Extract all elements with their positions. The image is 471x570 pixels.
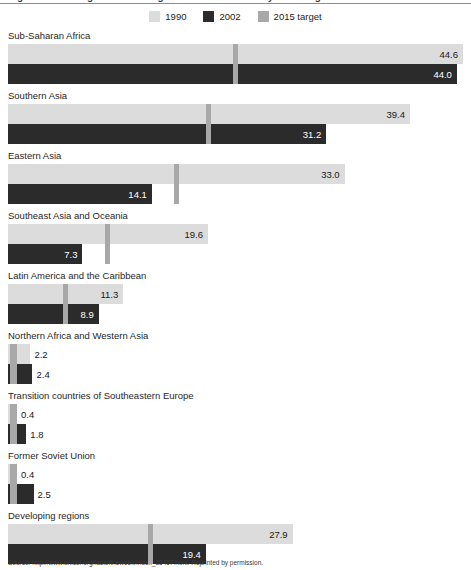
- bar-row: 31.2: [8, 124, 471, 144]
- bar-row: 2.4: [8, 364, 471, 384]
- bar-value-label: 8.9: [81, 309, 99, 320]
- legend-item-2015-target: 2015 target: [258, 11, 322, 22]
- bar-group: Eastern Asia33.014.1: [0, 150, 471, 204]
- bar-row: 7.3: [8, 244, 471, 264]
- bar-row: 19.6: [8, 224, 471, 244]
- category-label: Developing regions: [0, 510, 471, 521]
- target-marker-2015: [174, 164, 179, 204]
- legend-item-2002: 2002: [203, 11, 240, 22]
- bar-group: Sub-Saharan Africa44.644.0: [0, 30, 471, 84]
- bar-row: 8.9: [8, 304, 471, 324]
- category-label: Former Soviet Union: [0, 450, 471, 461]
- target-marker-2015: [10, 404, 17, 444]
- bar-row: 33.0: [8, 164, 471, 184]
- bar-row: 44.0: [8, 64, 471, 84]
- bar-value-label: 33.0: [321, 169, 345, 180]
- bar-value-label: 27.9: [269, 529, 293, 540]
- bar-row: 27.9: [8, 524, 471, 544]
- target-marker-2015: [10, 344, 17, 384]
- bar-group: Southern Asia39.431.2: [0, 90, 471, 144]
- bar-pair: 44.644.0: [0, 44, 471, 84]
- bar-row: 11.3: [8, 284, 471, 304]
- bar-value-label: 11.3: [100, 289, 123, 300]
- bar-value-label: 19.6: [184, 229, 208, 240]
- bar-value-label: 14.1: [128, 189, 152, 200]
- target-marker-2015: [10, 464, 17, 504]
- bar-row: 0.4: [8, 464, 471, 484]
- bar-row: 2.5: [8, 484, 471, 504]
- bar-row: 1.8: [8, 424, 471, 444]
- target-marker-2015: [105, 224, 110, 264]
- bar-value-label: 31.2: [303, 129, 327, 140]
- bar-row: 2.2: [8, 344, 471, 364]
- legend-label-1990: 1990: [165, 11, 186, 22]
- target-marker-2015: [233, 44, 238, 84]
- bar-group: Transition countries of Southeastern Eur…: [0, 390, 471, 444]
- bar-pair: 0.41.8: [0, 404, 471, 444]
- legend-swatch-2015-target: [258, 11, 269, 22]
- target-marker-2015: [63, 284, 68, 324]
- bar-pair: 27.919.4: [0, 524, 471, 564]
- category-label: Transition countries of Southeastern Eur…: [0, 390, 471, 401]
- bar-value-label: 2.4: [32, 369, 49, 380]
- bar-pair: 39.431.2: [0, 104, 471, 144]
- bar-2002[interactable]: 8.9: [8, 304, 99, 324]
- bar-group: Latin America and the Caribbean11.38.9: [0, 270, 471, 324]
- legend-label-2015-target: 2015 target: [274, 11, 322, 22]
- bar-value-label: 0.4: [17, 469, 34, 480]
- legend-item-1990: 1990: [149, 11, 186, 22]
- target-marker-2015: [148, 524, 153, 564]
- chart-legend: 1990 2002 2015 target: [0, 11, 471, 22]
- bar-chart: Sub-Saharan Africa44.644.0Southern Asia3…: [0, 30, 471, 570]
- category-label: Southern Asia: [0, 90, 471, 101]
- category-label: Sub-Saharan Africa: [0, 30, 471, 41]
- bar-group: Northern Africa and Western Asia2.22.4: [0, 330, 471, 384]
- legend-swatch-2002: [203, 11, 214, 22]
- bar-value-label: 2.2: [30, 349, 47, 360]
- source-note: Source: http://www.unicef.org/factofthew…: [8, 559, 263, 566]
- header-divider: [0, 3, 471, 4]
- bar-row: 14.1: [8, 184, 471, 204]
- bar-2002[interactable]: 7.3: [8, 244, 82, 264]
- bar-value-label: 44.0: [433, 69, 457, 80]
- bar-row: 44.6: [8, 44, 471, 64]
- bar-2002[interactable]: 31.2: [8, 124, 326, 144]
- legend-label-2002: 2002: [219, 11, 240, 22]
- bar-value-label: 39.4: [386, 109, 410, 120]
- bar-2002[interactable]: 14.1: [8, 184, 152, 204]
- bar-pair: 0.42.5: [0, 464, 471, 504]
- category-label: Latin America and the Caribbean: [0, 270, 471, 281]
- bar-pair: 19.67.3: [0, 224, 471, 264]
- bar-value-label: 2.5: [34, 489, 51, 500]
- bar-group: Developing regions27.919.4: [0, 510, 471, 564]
- legend-swatch-1990: [149, 11, 160, 22]
- bar-pair: 2.22.4: [0, 344, 471, 384]
- category-label: Southeast Asia and Oceania: [0, 210, 471, 221]
- bar-pair: 33.014.1: [0, 164, 471, 204]
- bar-value-label: 19.4: [182, 549, 206, 560]
- category-label: Northern Africa and Western Asia: [0, 330, 471, 341]
- bar-pair: 11.38.9: [0, 284, 471, 324]
- bar-group: Former Soviet Union0.42.5: [0, 450, 471, 504]
- bar-value-label: 0.4: [17, 409, 34, 420]
- category-label: Eastern Asia: [0, 150, 471, 161]
- bar-row: 39.4: [8, 104, 471, 124]
- bar-value-label: 1.8: [26, 429, 43, 440]
- bar-row: 0.4: [8, 404, 471, 424]
- bar-value-label: 7.3: [64, 249, 82, 260]
- bar-group: Southeast Asia and Oceania19.67.3: [0, 210, 471, 264]
- target-marker-2015: [206, 104, 211, 144]
- bar-value-label: 44.6: [440, 49, 464, 60]
